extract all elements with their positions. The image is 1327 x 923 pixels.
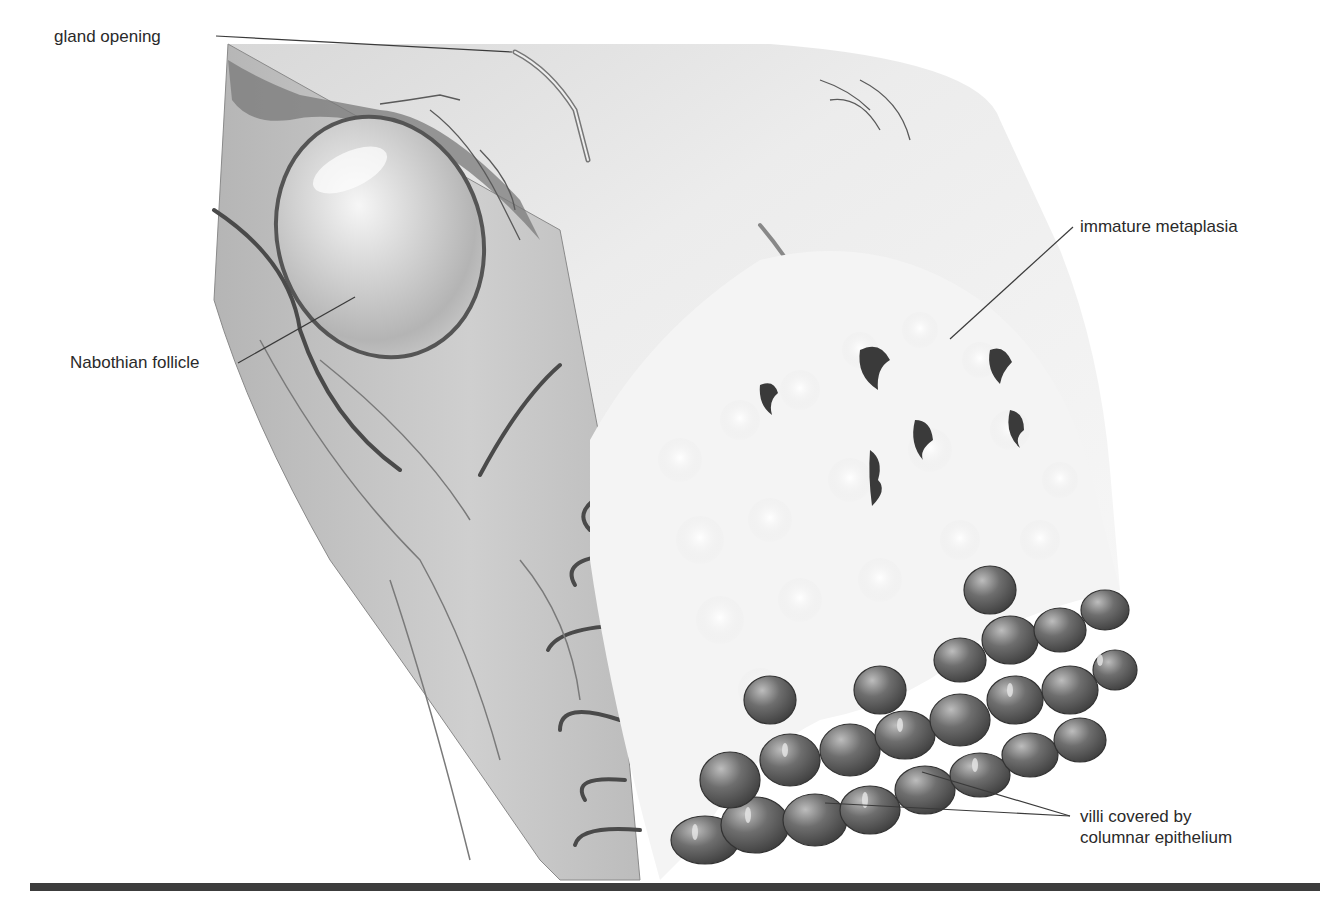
label-immature-metaplasia: immature metaplasia [1080,216,1238,237]
label-villi-line2: columnar epithelium [1080,827,1232,848]
bottom-divider-rule [30,883,1320,891]
label-nabothian-follicle: Nabothian follicle [70,352,199,373]
anatomical-illustration: gland opening Nabothian follicle immatur… [0,0,1327,923]
tissue-block-drawing [0,0,1327,923]
label-villi-line1: villi covered by [1080,806,1232,827]
label-gland-opening: gland opening [54,26,161,47]
label-villi-columnar-epithelium: villi covered by columnar epithelium [1080,806,1232,848]
